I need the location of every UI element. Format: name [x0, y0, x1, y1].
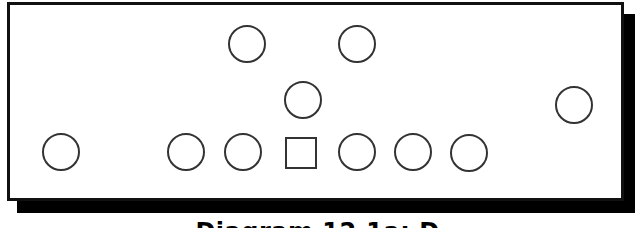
player-circle-marker — [338, 133, 376, 171]
player-circle-marker — [450, 134, 488, 172]
player-square-marker — [285, 137, 317, 169]
player-circle-marker — [167, 133, 205, 171]
player-circle-marker — [555, 86, 593, 124]
caption-clip: Diagram 12.1a: D — [0, 213, 635, 228]
player-circle-marker — [394, 133, 432, 171]
diagram-caption: Diagram 12.1a: D — [0, 218, 635, 228]
player-circle-marker — [338, 25, 376, 63]
player-circle-marker — [284, 81, 322, 119]
player-circle-marker — [42, 133, 80, 171]
player-circle-marker — [228, 25, 266, 63]
player-circle-marker — [224, 133, 262, 171]
